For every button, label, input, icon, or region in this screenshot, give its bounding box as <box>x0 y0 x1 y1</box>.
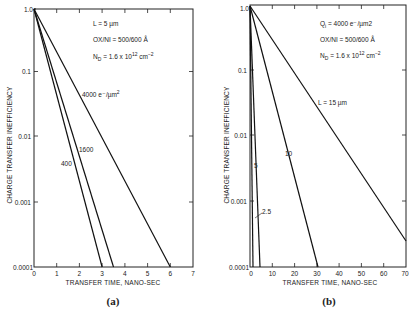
y-tick-labels-b: 1.0 0.1 0.01 0.001 0.0001 <box>229 5 249 271</box>
svg-text:L = 5 µm: L = 5 µm <box>93 20 118 28</box>
label-L10: 10 <box>285 150 293 157</box>
label-L5: 5 <box>254 162 258 169</box>
svg-text:0: 0 <box>249 270 253 277</box>
y-tick-labels-a: 1.0 0.1 0.01 0.001 0.0001 <box>13 6 33 271</box>
annotations-a: L = 5 µm OX/NI = 500/600 Å ND = 1.6 x 10… <box>61 20 154 167</box>
figure: 0 1 2 3 4 5 6 7 1.0 0.1 0.01 0.001 0.000… <box>0 0 412 312</box>
svg-text:60: 60 <box>380 270 388 277</box>
svg-text:0.001: 0.001 <box>15 199 32 206</box>
caption-a: (a) <box>107 295 120 308</box>
svg-text:0.01: 0.01 <box>234 132 247 139</box>
svg-text:50: 50 <box>358 270 366 277</box>
label-1600: 1600 <box>79 146 94 153</box>
svg-text:0.1: 0.1 <box>22 68 31 75</box>
y-axis-label-b: CHARGE TRANSFER INEFFICIENCY <box>223 86 230 204</box>
svg-text:30: 30 <box>313 270 321 277</box>
x-tick-labels-b: 0 10 20 30 40 50 60 70 <box>249 270 409 277</box>
svg-text:7: 7 <box>191 270 195 277</box>
annotations-b: Qi = 4000 e⁻/µm2 OX/NI = 500/600 Å ND = … <box>254 20 381 218</box>
panel-b: 0 10 20 30 40 50 60 70 1.0 0.1 0.01 0.00… <box>223 5 409 308</box>
svg-text:5: 5 <box>146 270 150 277</box>
svg-text:20: 20 <box>291 270 299 277</box>
series-L10 <box>250 6 318 267</box>
x-ticks-a <box>34 9 193 267</box>
svg-text:0: 0 <box>32 270 36 277</box>
svg-text:3: 3 <box>100 270 104 277</box>
plot-frame-b <box>250 5 406 267</box>
svg-text:70: 70 <box>401 270 409 277</box>
series-lines-a <box>34 9 170 267</box>
svg-text:1.0: 1.0 <box>240 5 249 12</box>
label-400: 400 <box>61 160 72 167</box>
svg-text:1.0: 1.0 <box>24 6 33 13</box>
svg-text:ND = 1.6 x 1012 cm−2: ND = 1.6 x 1012 cm−2 <box>320 50 381 61</box>
svg-text:0.1: 0.1 <box>238 67 247 74</box>
svg-text:0.0001: 0.0001 <box>13 264 33 271</box>
svg-text:0.01: 0.01 <box>18 133 31 140</box>
svg-text:1: 1 <box>55 270 59 277</box>
label-L15: L = 15 µm <box>318 99 347 107</box>
svg-text:10: 10 <box>269 270 277 277</box>
panel-a: 0 1 2 3 4 5 6 7 1.0 0.1 0.01 0.001 0.000… <box>6 6 195 308</box>
svg-text:OX/NI = 500/600 Å: OX/NI = 500/600 Å <box>93 35 148 43</box>
svg-text:6: 6 <box>168 270 172 277</box>
x-axis-label-b: TRANSFER TIME, NANO-SEC <box>283 279 378 286</box>
svg-text:0.0001: 0.0001 <box>229 264 249 271</box>
x-tick-labels-a: 0 1 2 3 4 5 6 7 <box>32 270 195 277</box>
svg-text:40: 40 <box>335 270 343 277</box>
label-4000: 4000 e⁻/µm2 <box>82 89 120 99</box>
svg-text:ND = 1.6 x 1012 cm−2: ND = 1.6 x 1012 cm−2 <box>93 51 154 62</box>
plot-frame-a <box>34 9 193 267</box>
series-400 <box>34 9 102 267</box>
svg-text:0.001: 0.001 <box>231 198 248 205</box>
svg-text:Qi = 4000 e⁻/µm2: Qi = 4000 e⁻/µm2 <box>320 20 372 29</box>
label-L2.5: 2.5 <box>262 208 271 215</box>
svg-text:4: 4 <box>123 270 127 277</box>
y-axis-label-a: CHARGE TRANSFER INEFFICIENCY <box>6 86 13 204</box>
x-axis-label-a: TRANSFER TIME, NANO-SEC <box>66 279 161 286</box>
svg-text:OX/NI = 500/600 Å: OX/NI = 500/600 Å <box>320 35 375 43</box>
series-lines-b <box>250 6 406 267</box>
x-ticks-b <box>250 5 406 267</box>
svg-text:2: 2 <box>78 270 82 277</box>
caption-b: (b) <box>322 295 336 308</box>
